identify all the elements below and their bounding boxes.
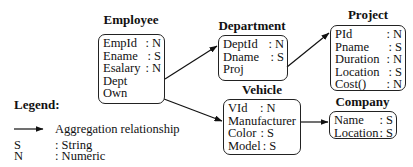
attribute-row: VId: N bbox=[228, 102, 297, 115]
attribute-row: Location: S bbox=[334, 127, 393, 140]
attribute-name: PId bbox=[335, 28, 352, 41]
vehicle-class-box: VId: N Manufacturer Color: S Model: S bbox=[223, 99, 301, 155]
attribute-row: Model: S bbox=[228, 140, 297, 153]
department-class-box: DeptId: N Dname: S Proj bbox=[218, 35, 288, 81]
legend-key-n: N bbox=[14, 150, 23, 162]
project-title: Project bbox=[330, 8, 406, 22]
attribute-name: DeptId bbox=[223, 38, 258, 51]
attribute-type: : N bbox=[145, 62, 161, 75]
attribute-name: Model bbox=[228, 140, 261, 153]
attribute-row: Color: S bbox=[228, 127, 297, 140]
arrow-employee-to-vehicle bbox=[164, 99, 222, 121]
attribute-type: : S bbox=[263, 140, 277, 153]
department-title: Department bbox=[212, 19, 292, 33]
attribute-row: DeptId: N bbox=[223, 38, 284, 51]
attribute-row: Esalary: N bbox=[103, 62, 161, 75]
attribute-name: EmpId bbox=[103, 37, 137, 50]
attribute-name: Name bbox=[334, 114, 364, 127]
attribute-type: : N bbox=[145, 37, 161, 50]
attribute-name: Location bbox=[334, 127, 378, 140]
attribute-row: Cost(): N bbox=[335, 78, 402, 91]
arrow-employee-to-department bbox=[165, 46, 217, 79]
attribute-row: Own bbox=[103, 87, 161, 100]
attribute-type: : N bbox=[268, 38, 284, 51]
attribute-type: : N bbox=[386, 28, 402, 41]
attribute-row: Proj bbox=[223, 63, 284, 76]
legend-arrow-label: Aggregation relationship bbox=[55, 123, 180, 135]
attribute-name: VId bbox=[228, 102, 256, 115]
company-title: Company bbox=[325, 95, 400, 109]
attribute-row: PId: N bbox=[335, 28, 402, 41]
attribute-type: : S bbox=[379, 114, 393, 127]
employee-class-box: EmpId: N Ename: S Esalary: N Dept Own bbox=[98, 34, 165, 104]
legend-title: Legend: bbox=[14, 97, 60, 113]
attribute-name: Proj bbox=[223, 63, 244, 76]
attribute-type: : N bbox=[386, 78, 402, 91]
attribute-row: Name: S bbox=[334, 114, 393, 127]
attribute-type: : S bbox=[270, 51, 284, 64]
attribute-type: : S bbox=[379, 127, 393, 140]
attribute-name: Color bbox=[228, 127, 256, 140]
attribute-name: Own bbox=[103, 87, 127, 100]
arrow-department-to-project bbox=[287, 33, 329, 67]
attribute-type: : N bbox=[260, 102, 276, 115]
attribute-name: Cost() bbox=[335, 78, 366, 91]
attribute-type: : N bbox=[386, 53, 402, 66]
attribute-type: : S bbox=[260, 127, 274, 140]
vehicle-title: Vehicle bbox=[223, 83, 301, 97]
attribute-row: Duration: N bbox=[335, 53, 402, 66]
employee-title: Employee bbox=[98, 13, 164, 27]
project-class-box: PId: N Pname: S Duration: N Location: S … bbox=[330, 25, 406, 91]
attribute-row: EmpId: N bbox=[103, 37, 161, 50]
attribute-name: Esalary bbox=[103, 62, 140, 75]
attribute-name: Duration bbox=[335, 53, 379, 66]
legend-value-numeric: : Numeric bbox=[55, 150, 105, 162]
company-class-box: Name: S Location: S bbox=[329, 111, 397, 139]
